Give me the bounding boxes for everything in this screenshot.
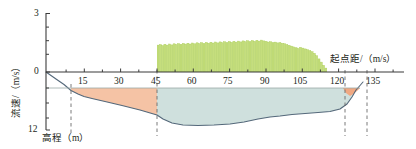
x-tick-label-6: 105: [293, 77, 307, 87]
y-tick-label-top: 3: [34, 9, 39, 19]
x-tick-label-1: 30: [114, 77, 124, 87]
x-tick-label-2: 45: [151, 77, 161, 87]
elevation-axis-title: 高程（m）: [42, 134, 89, 144]
x-tick-label-5: 90: [260, 77, 270, 87]
x-tick-label-3: 60: [187, 77, 197, 87]
y-tick-label-zero: 0: [34, 67, 39, 77]
x-axis-title: 起点距/（m/s）: [330, 55, 396, 65]
y-tick-label-bottom: 12: [28, 125, 38, 135]
chart-figure: 流速/（m/s） 3 0 12 高程（m） 起点距/（m/s） 15 30 45…: [0, 0, 416, 149]
x-tick-label-7: 120: [330, 77, 344, 87]
chart-canvas: [0, 0, 416, 149]
x-tick-label-8: 135: [366, 77, 380, 87]
velocity-bar-series: [157, 40, 327, 72]
x-tick-label-4: 75: [223, 77, 233, 87]
x-tick-label-0: 15: [78, 77, 88, 87]
y-axis-title: 流速/（m/s）: [12, 62, 22, 118]
